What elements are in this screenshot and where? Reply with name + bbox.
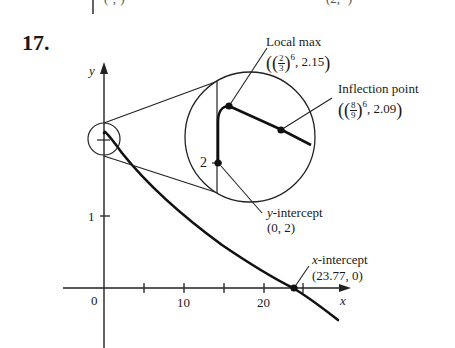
previous-figure-text-left: (·,·) (104, 0, 125, 6)
x-intercept-point (290, 284, 297, 291)
graph-canvas (0, 0, 455, 348)
x-axis-arrow-icon (339, 284, 351, 292)
inflection-coords: ((89)6, 2.09) (338, 97, 402, 120)
y-axis-arrow-icon (100, 62, 108, 74)
y-intercept-point (214, 159, 221, 166)
x-axis-label: x (340, 293, 346, 308)
y-tick-label-1: 1 (88, 209, 95, 224)
x-tick-label-20: 20 (257, 295, 270, 310)
x-intercept-title: x-intercept (312, 252, 368, 267)
inset-y-label-2: 2 (200, 155, 207, 170)
origin-label: 0 (91, 293, 98, 308)
local-max-coords: ((23)6, 2.15) (266, 50, 330, 73)
y-axis-label: y (89, 63, 95, 78)
inflection-point (277, 126, 284, 133)
magnified-inset (185, 72, 315, 202)
y-intercept-coords: (0, 2) (267, 220, 295, 235)
local-max-point (225, 102, 232, 109)
inflection-title: Inflection point (338, 81, 419, 96)
y-intercept-title: y-intercept (267, 205, 323, 220)
x-intercept-coords: (23.77, 0) (312, 268, 363, 283)
x-tick-label-10: 10 (177, 295, 190, 310)
problem-number: 17. (22, 30, 50, 56)
previous-figure-text-right: (2, ·) (326, 0, 352, 6)
local-max-title: Local max (266, 34, 321, 49)
x-intercept-leader (296, 266, 309, 285)
figure: (·,·) (2, ·) 17. y x 0 10 20 1 2 Local m… (0, 0, 455, 348)
